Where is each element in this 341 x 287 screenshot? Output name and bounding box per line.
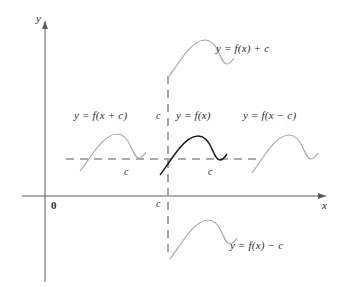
- label-curve-base: y = f(x): [176, 110, 211, 121]
- label-curve-shift-down: y = f(x) − c: [230, 240, 283, 251]
- label-offset-horizontal-right: c: [208, 167, 212, 177]
- label-curve-shift-up: y = f(x) + c: [216, 43, 269, 54]
- guide-lines-group: [66, 76, 258, 256]
- label-curve-shift-left: y = f(x + c): [74, 110, 127, 121]
- label-offset-horizontal-left: c: [124, 167, 128, 177]
- curve-base: [160, 136, 227, 175]
- label-offset-vertical-upper: c: [156, 111, 160, 121]
- function-translation-figure: y = f(x) + c y = f(x + c) y = f(x) y = f…: [0, 0, 341, 287]
- graph-canvas: [0, 0, 341, 287]
- label-origin: 0: [51, 200, 57, 211]
- y-axis-arrow: [42, 21, 48, 29]
- curve-shift-left: [80, 134, 146, 171]
- label-curve-shift-right: y = f(x − c): [243, 110, 296, 121]
- label-y-axis: y: [36, 13, 41, 24]
- label-x-axis: x: [322, 200, 327, 211]
- label-offset-vertical-lower: c: [156, 199, 160, 209]
- curve-shift-down: [170, 220, 237, 259]
- curve-shift-right: [252, 135, 318, 173]
